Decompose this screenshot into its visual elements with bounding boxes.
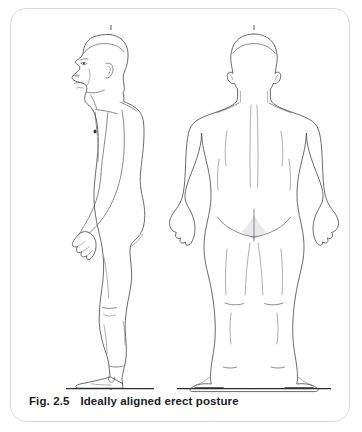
posterior-view-figure [169,25,338,392]
posterior-body-outline-mirrored [254,34,339,392]
lateral-pupil [83,63,85,65]
lateral-hand [72,232,96,260]
figure-caption: Fig. 2.5Ideally aligned erect posture [11,395,349,407]
lateral-nipple [94,129,97,133]
lateral-chin-crease [77,87,84,88]
figure-panel: Fig. 2.5Ideally aligned erect posture [10,8,350,422]
figure-illustration [11,9,349,397]
posterior-body-outline [169,34,254,392]
figure-caption-text: Ideally aligned erect posture [80,395,238,407]
lateral-view-figure [66,25,154,391]
lateral-mouth [74,82,83,83]
posture-diagram-svg [11,9,349,397]
figure-caption-number: Fig. 2.5 [29,395,69,407]
